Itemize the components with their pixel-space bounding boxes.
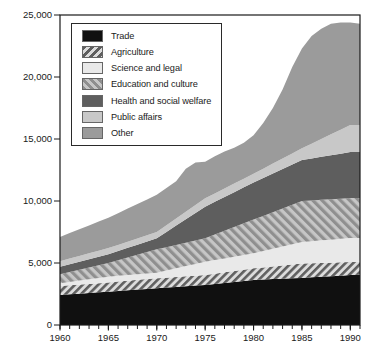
legend-label-education-and-culture: Education and culture <box>111 79 198 89</box>
y-axis-tick-label: 5,000 <box>28 257 52 268</box>
legend-label-science-and-legal: Science and legal <box>111 63 182 73</box>
y-axis-tick-label: 0 <box>47 319 52 330</box>
legend-label-health-and-social-welfare: Health and social welfare <box>111 96 211 106</box>
y-axis-tick-label: 15,000 <box>23 133 52 144</box>
legend-swatch-trade <box>82 30 103 42</box>
legend-swatch-other <box>82 127 103 139</box>
legend-swatch-education-and-culture <box>82 78 103 90</box>
legend-item-agriculture: Agriculture <box>82 44 219 59</box>
legend-label-other: Other <box>111 128 133 138</box>
stacked-area-chart-figure: 05,00010,00015,00020,00025,0001960196519… <box>0 0 371 362</box>
x-axis-tick-label: 1975 <box>195 332 216 343</box>
legend-label-public-affairs: Public affairs <box>111 112 162 122</box>
y-axis-tick-label: 25,000 <box>23 9 52 20</box>
legend-item-other: Other <box>82 126 219 141</box>
legend-item-science-and-legal: Science and legal <box>82 61 219 76</box>
legend-item-trade: Trade <box>82 28 219 43</box>
x-axis-tick-label: 1960 <box>49 332 70 343</box>
legend-swatch-public-affairs <box>82 111 103 123</box>
legend-item-health-and-social-welfare: Health and social welfare <box>82 93 219 108</box>
y-axis-tick-label: 10,000 <box>23 195 52 206</box>
legend-item-education-and-culture: Education and culture <box>82 77 219 92</box>
legend-swatch-health-and-social-welfare <box>82 95 103 107</box>
x-axis-tick-label: 1965 <box>98 332 119 343</box>
legend-label-agriculture: Agriculture <box>111 47 154 57</box>
legend-swatch-science-and-legal <box>82 62 103 74</box>
legend-label-trade: Trade <box>111 31 134 41</box>
y-axis-tick-label: 20,000 <box>23 71 52 82</box>
x-axis-tick-label: 1980 <box>243 332 264 343</box>
legend: TradeAgricultureScience and legalEducati… <box>71 23 222 146</box>
legend-swatch-agriculture <box>82 46 103 58</box>
x-axis-tick-label: 1990 <box>340 332 361 343</box>
legend-item-public-affairs: Public affairs <box>82 110 219 125</box>
x-axis-tick-label: 1985 <box>291 332 312 343</box>
x-axis-tick-label: 1970 <box>146 332 167 343</box>
